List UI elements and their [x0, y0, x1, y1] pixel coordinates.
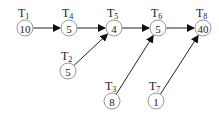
node-t1: 10T1 — [17, 6, 33, 36]
node-t6: 5T6 — [150, 6, 166, 36]
node-value: 10 — [20, 23, 32, 35]
node-label: T1 — [18, 6, 29, 21]
node-value: 4 — [111, 23, 117, 35]
node-label: T4 — [62, 6, 73, 21]
node-t5: 4T5 — [106, 6, 122, 36]
node-t8: 40T8 — [195, 6, 211, 36]
precedence-graph: 10T15T44T55T640T85T28T31T7 — [0, 0, 219, 114]
nodes: 10T15T44T55T640T85T28T31T7 — [17, 6, 211, 109]
node-label: T6 — [151, 6, 162, 21]
node-value: 5 — [66, 23, 72, 35]
node-t2: 5T2 — [60, 49, 76, 79]
node-t4: 5T4 — [61, 6, 77, 36]
edge-t2-t5 — [74, 34, 108, 65]
node-value: 5 — [155, 23, 161, 35]
edge-t7-t8 — [160, 36, 198, 95]
node-t3: 8T3 — [104, 79, 120, 109]
node-value: 1 — [153, 96, 159, 108]
edge-t3-t6 — [116, 36, 153, 95]
node-label: T3 — [105, 79, 116, 94]
node-label: T8 — [196, 6, 207, 21]
node-label: T2 — [61, 49, 72, 64]
node-t7: 1T7 — [148, 79, 164, 109]
node-value: 8 — [109, 96, 115, 108]
node-value: 40 — [198, 23, 210, 35]
node-value: 5 — [65, 66, 71, 78]
node-label: T7 — [149, 79, 160, 94]
node-label: T5 — [107, 6, 118, 21]
